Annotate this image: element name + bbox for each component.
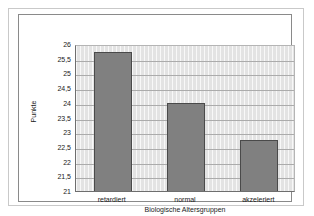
y-axis-ticks: 2625,52524,52423,52322,52221,521 bbox=[33, 45, 71, 192]
y-axis-tick-label: 21 bbox=[35, 188, 71, 196]
x-axis-title: Biologische Altersgruppen bbox=[75, 206, 295, 213]
y-axis-tick-label: 23,5 bbox=[35, 115, 71, 123]
chart-figure: Punkte 2625,52524,52423,52322,52221,521 … bbox=[0, 0, 314, 216]
y-axis-tick-label: 25 bbox=[35, 70, 71, 78]
bar bbox=[240, 140, 278, 192]
x-axis-ticks: retardiertnormalakzeleriert bbox=[75, 196, 295, 206]
y-axis-tick-label: 21,5 bbox=[35, 173, 71, 181]
y-axis-tick-label: 24 bbox=[35, 100, 71, 108]
bar bbox=[167, 103, 205, 192]
x-axis-tick-label: akzeleriert bbox=[222, 196, 295, 203]
y-axis-tick-label: 25,5 bbox=[35, 56, 71, 64]
y-axis-tick-label: 23 bbox=[35, 129, 71, 137]
y-axis-tick-label: 24,5 bbox=[35, 85, 71, 93]
chart-area: Punkte 2625,52524,52423,52322,52221,521 … bbox=[18, 14, 292, 202]
y-axis-tick-label: 22 bbox=[35, 159, 71, 167]
y-axis-tick-label: 26 bbox=[35, 41, 71, 49]
x-axis-tick-label: retardiert bbox=[75, 196, 148, 203]
bar bbox=[94, 52, 132, 192]
plot-area bbox=[75, 45, 295, 192]
x-axis-tick-label: normal bbox=[148, 196, 221, 203]
y-axis-tick-label: 22,5 bbox=[35, 144, 71, 152]
